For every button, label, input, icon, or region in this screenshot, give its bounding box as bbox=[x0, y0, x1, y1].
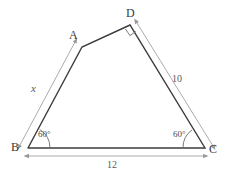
vertex-label-b: B bbox=[11, 141, 19, 153]
angle-label-c: 60° bbox=[173, 130, 186, 139]
vertex-label-c: C bbox=[209, 143, 217, 155]
dimension-label-10: 10 bbox=[172, 74, 182, 84]
dimension-line-10 bbox=[137, 23, 213, 146]
right-angle-marker-D bbox=[126, 29, 136, 36]
vertex-label-d: D bbox=[126, 7, 135, 19]
geometry-figure: B A D C x 10 12 60° 60° bbox=[0, 0, 226, 178]
dimension-label-x: x bbox=[31, 83, 36, 94]
dimension-label-12: 12 bbox=[107, 160, 117, 170]
angle-label-b: 60° bbox=[38, 130, 51, 139]
vertex-label-a: A bbox=[69, 29, 78, 41]
